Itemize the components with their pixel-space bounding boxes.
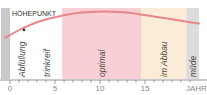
x-tick-label: 0 bbox=[8, 84, 13, 93]
zone-label-optimal: optimal bbox=[97, 48, 107, 77]
zone-label-im-abbau: im Abbau bbox=[159, 41, 169, 77]
x-axis-label: JAHRE bbox=[186, 84, 207, 93]
zone-pre bbox=[1, 8, 10, 79]
chart-title: HÖHEPUNKT bbox=[12, 10, 57, 17]
zone-label-müde: müde bbox=[188, 55, 198, 77]
x-tick-label: 15 bbox=[141, 84, 150, 93]
x-axis: 051015 bbox=[0, 80, 207, 93]
zone-label-trinkreif: trinkreif bbox=[42, 47, 52, 77]
x-tick-label: 5 bbox=[53, 84, 58, 93]
zone-label-abfüllung: Abfüllung bbox=[17, 41, 27, 78]
bottling-marker bbox=[23, 29, 26, 32]
wine-maturity-chart: Abfüllungtrinkreifoptimalim Abbaumüde 05… bbox=[0, 0, 207, 95]
x-tick-label: 10 bbox=[96, 84, 105, 93]
